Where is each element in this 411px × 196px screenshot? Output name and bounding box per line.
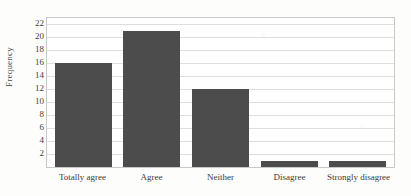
bar [261,161,318,167]
y-tick-label: 8 [18,110,44,119]
bar [329,161,386,167]
y-tick-label: 12 [18,84,44,93]
bars-layer [47,18,394,167]
y-tick-label: 18 [18,45,44,54]
y-axis-title: Frequency [4,27,14,107]
bar [55,63,112,167]
x-tick-label: Strongly disagree [324,170,393,190]
x-tick-label: Disagree [255,170,324,190]
x-tick-label: Neither [186,170,255,190]
bar-slot [118,18,187,167]
x-tick-label: Totally agree [48,170,117,190]
x-axis-tick-labels: Totally agreeAgreeNeitherDisagreeStrongl… [46,170,395,190]
plot-area [46,17,395,168]
bar-slot [186,18,255,167]
bar [123,31,180,167]
bar-slot [323,18,392,167]
y-tick-label: 6 [18,123,44,132]
y-tick-label: 2 [18,149,44,158]
y-axis-tick-labels: 222018161412108642 [18,12,44,169]
bar-chart: Frequency 222018161412108642 Totally agr… [0,0,411,196]
bar-slot [255,18,324,167]
y-tick-label: 20 [18,32,44,41]
y-tick-label: 4 [18,136,44,145]
y-tick-label: 10 [18,97,44,106]
y-tick-label: 16 [18,58,44,67]
bar-slot [49,18,118,167]
bar [192,89,249,167]
y-tick-label: 22 [18,19,44,28]
y-tick-label: 14 [18,71,44,80]
x-tick-label: Agree [117,170,186,190]
